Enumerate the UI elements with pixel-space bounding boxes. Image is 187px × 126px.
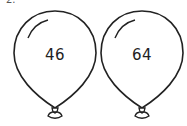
balloon-icon: [12, 8, 98, 120]
balloon-number: 46: [12, 46, 98, 64]
balloon-1: 46: [12, 8, 98, 120]
balloon-2: 64: [99, 8, 185, 120]
balloon-icon: [99, 8, 185, 120]
question-label: 2.: [6, 0, 16, 5]
balloon-number: 64: [99, 46, 185, 64]
